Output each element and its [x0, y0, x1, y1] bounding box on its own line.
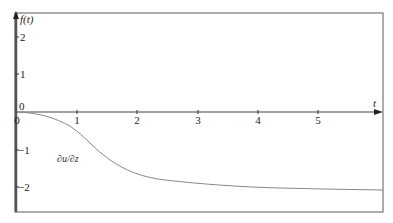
x-axis-title: t: [373, 97, 377, 109]
y-tick-label-2: 2: [20, 31, 26, 43]
y-tick-label-neg1: −1: [18, 144, 30, 156]
x-tick-label-2: 2: [134, 114, 140, 126]
x-tick-label-1: 1: [74, 114, 80, 126]
x-tick-label-0: 0: [14, 114, 20, 126]
y-tick-label-1: 1: [20, 68, 26, 80]
x-tick-label-3: 3: [195, 114, 201, 126]
chart: 0 1 2 3 4 5 2 1 0 −1 −2 f(t) t ∂u/∂z: [0, 0, 393, 223]
x-tick-label-5: 5: [315, 114, 321, 126]
y-axis-arrow-icon: [13, 11, 19, 19]
y-axis-title: f(t): [20, 13, 34, 26]
x-axis-arrow-icon: [374, 109, 383, 115]
x-tick-label-4: 4: [255, 114, 261, 126]
y-tick-label-neg2: −2: [18, 181, 30, 193]
y-tick-label-0: 0: [19, 100, 25, 112]
curve-label: ∂u/∂z: [57, 153, 79, 164]
